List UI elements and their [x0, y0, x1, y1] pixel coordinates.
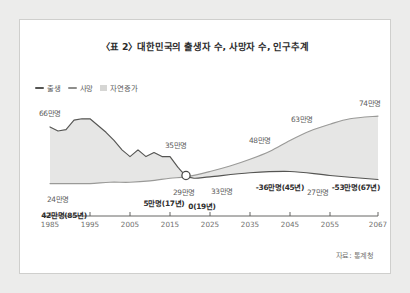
legend-item-natural-increase: 자연증가: [100, 82, 137, 93]
series-line-deaths: [50, 116, 378, 184]
chart-annotation-label: 24만명: [47, 193, 69, 204]
x-axis-tick-label: 2055: [321, 220, 339, 229]
chart-annotation-label: 74만명: [359, 97, 381, 108]
x-axis-tick-label: 2035: [241, 220, 259, 229]
series-line-births: [50, 119, 378, 180]
chart-annotation-label: 27만명: [307, 186, 329, 197]
chart-annotation-label: 35만명: [165, 139, 187, 150]
x-axis-ticks: [50, 212, 378, 216]
crossover-marker: [182, 171, 190, 179]
legend-label-natural-increase: 자연증가: [110, 82, 137, 93]
chart-annotation-label: 33만명: [211, 185, 233, 196]
legend-label-births: 출생: [47, 82, 61, 93]
chart-legend: 출생 사망 자연증가: [35, 82, 137, 93]
chart-annotation-label: 0(19년): [188, 200, 215, 211]
chart-annotation-label: 66만명: [39, 107, 61, 118]
chart-annotation-label: -53만명(67년): [332, 181, 380, 192]
chart-annotation-label: 5만명(17년): [144, 197, 185, 208]
x-axis-tick-label: 2045: [281, 220, 299, 229]
legend-line-icon-deaths: [68, 87, 77, 89]
x-axis-tick-label: 1985: [41, 220, 59, 229]
x-axis-tick-label: 2015: [161, 220, 179, 229]
legend-item-deaths: 사망: [68, 82, 94, 93]
legend-block-icon-natural-increase: [100, 85, 107, 91]
x-axis-tick-label: 2067: [369, 220, 387, 229]
x-axis-tick-label: 1995: [81, 220, 99, 229]
chart-plot-area: [20, 20, 392, 275]
chart-annotation-label: 42만명(85년): [41, 209, 87, 220]
natural-increase-band: [50, 116, 378, 184]
chart-annotation-label: 63만명: [291, 113, 313, 124]
x-axis-tick-label: 2005: [121, 220, 139, 229]
legend-label-deaths: 사망: [80, 82, 94, 93]
chart-title: 〈표 2〉대한민국의 출생자 수, 사망자 수, 인구추계: [20, 39, 390, 53]
chart-annotation-label: 29만명: [173, 186, 195, 197]
legend-item-births: 출생: [35, 82, 61, 93]
chart-annotation-label: 48만명: [249, 134, 271, 145]
source-note: 자료: 통계청: [336, 250, 374, 260]
x-axis-tick-label: 2025: [201, 220, 219, 229]
chart-annotation-label: -36만명(45년): [256, 181, 304, 192]
legend-line-icon-births: [35, 87, 44, 89]
figure-panel: 〈표 2〉대한민국의 출생자 수, 사망자 수, 인구추계 출생 사망 자연증가: [19, 19, 391, 274]
